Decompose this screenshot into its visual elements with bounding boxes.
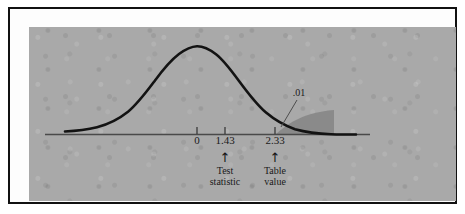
tick-label-test-statistic: 1.43 (207, 135, 243, 147)
test-statistic-label-line2: statistic (199, 177, 251, 188)
table-value-label-line2: value (249, 177, 301, 188)
table-value-arrow-icon: ↑ (265, 151, 285, 164)
tick-label-zero: 0 (187, 135, 207, 147)
tick-label-table-value: 2.33 (257, 135, 293, 147)
test-statistic-arrow-icon: ↑ (215, 151, 235, 164)
figure-frame: 0 1.43 2.33 .01 ↑ Test statistic ↑ Table… (0, 0, 465, 214)
figure-border: 0 1.43 2.33 .01 ↑ Test statistic ↑ Table… (8, 7, 457, 204)
alpha-level-label: .01 (287, 88, 311, 99)
normal-distribution-chart: 0 1.43 2.33 .01 ↑ Test statistic ↑ Table… (29, 27, 456, 201)
